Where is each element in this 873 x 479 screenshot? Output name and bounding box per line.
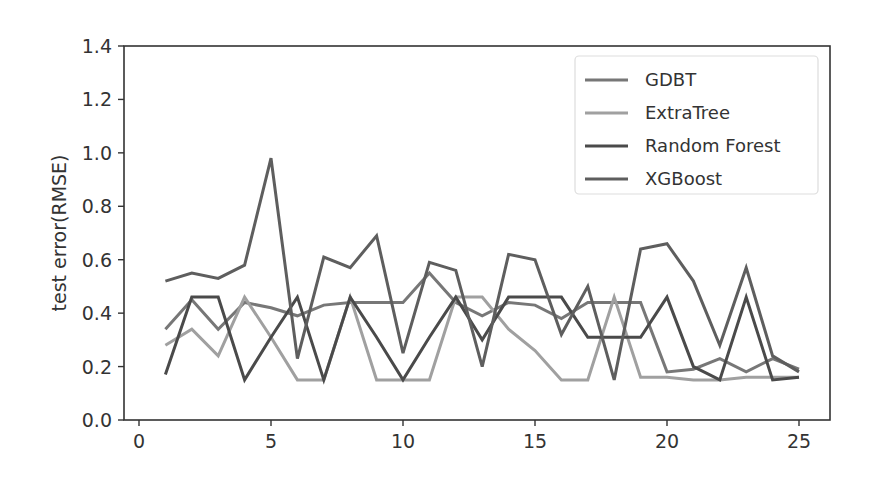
y-axis: 0.00.20.40.60.81.01.21.4 <box>82 35 124 431</box>
y-tick-label: 1.4 <box>82 35 112 57</box>
y-tick-label: 0.8 <box>82 195 112 217</box>
y-tick-label: 0.2 <box>82 356 112 378</box>
x-tick-label: 15 <box>523 430 547 452</box>
y-tick-label: 0.4 <box>82 302 112 324</box>
legend-label: Random Forest <box>645 135 780 156</box>
legend-label: ExtraTree <box>645 102 730 123</box>
x-tick-label: 5 <box>265 430 277 452</box>
x-tick-label: 10 <box>391 430 415 452</box>
legend-label: XGBoost <box>645 168 722 189</box>
line-chart: 0.00.20.40.60.81.01.21.4 0510152025 test… <box>0 0 873 479</box>
y-axis-label: test error(RMSE) <box>48 154 70 311</box>
x-axis: 0510152025 <box>133 420 811 452</box>
y-tick-label: 0.6 <box>82 249 112 271</box>
x-tick-label: 20 <box>655 430 679 452</box>
x-tick-label: 25 <box>787 430 811 452</box>
x-tick-label: 0 <box>133 430 145 452</box>
legend: GDBTExtraTreeRandom ForestXGBoost <box>575 56 818 194</box>
legend-label: GDBT <box>645 69 697 90</box>
y-tick-label: 1.2 <box>82 88 112 110</box>
y-tick-label: 0.0 <box>82 409 112 431</box>
y-tick-label: 1.0 <box>82 142 112 164</box>
